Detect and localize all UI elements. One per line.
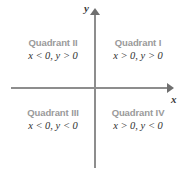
y-axis-label: y xyxy=(84,3,89,14)
quadrant-2-name: Quadrant II xyxy=(15,37,91,48)
y-axis-line xyxy=(94,13,96,168)
quadrant-3-condition: x < 0, y < 0 xyxy=(15,120,91,132)
quadrant-3-name: Quadrant III xyxy=(15,107,91,118)
quadrant-4-name: Quadrant IV xyxy=(100,107,176,118)
x-axis-line xyxy=(11,87,170,89)
quadrant-2-condition: x < 0, y > 0 xyxy=(15,50,91,62)
quadrant-3-block: Quadrant III x < 0, y < 0 xyxy=(15,107,91,133)
quadrant-1-condition: x > 0, y > 0 xyxy=(100,50,176,62)
quadrants-diagram: y x Quadrant II x < 0, y > 0 Quadrant I … xyxy=(0,0,185,174)
quadrant-2-block: Quadrant II x < 0, y > 0 xyxy=(15,37,91,63)
quadrant-1-name: Quadrant I xyxy=(100,37,176,48)
quadrant-4-condition: x > 0, y < 0 xyxy=(100,120,176,132)
y-axis-arrow-icon xyxy=(90,8,100,15)
x-axis-label: x xyxy=(171,94,177,105)
quadrant-4-block: Quadrant IV x > 0, y < 0 xyxy=(100,107,176,133)
quadrant-1-block: Quadrant I x > 0, y > 0 xyxy=(100,37,176,63)
x-axis-arrow-icon xyxy=(167,83,174,93)
